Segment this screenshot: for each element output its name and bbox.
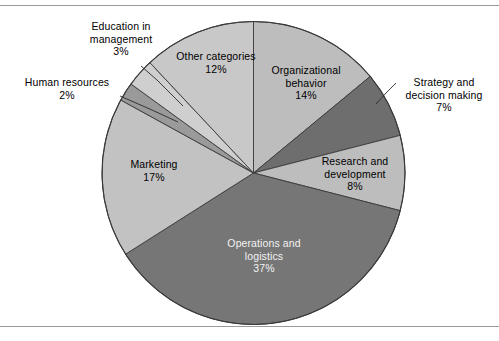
slice-label-education-in-management: Education in management 3% [66, 20, 176, 58]
figure-canvas: Organizational behavior 14% Strategy and… [0, 0, 499, 341]
label-line-1: Other categories [176, 50, 255, 62]
label-line-1: Strategy and [414, 76, 475, 88]
slice-label-strategy-and-decision-making: Strategy and decision making 7% [392, 76, 496, 114]
label-line-2: development [324, 168, 385, 180]
label-line-2: management [90, 33, 152, 45]
label-percent: 3% [66, 45, 176, 58]
label-line-1: Organizational [271, 64, 340, 76]
label-line-2: logistics [245, 250, 283, 262]
label-percent: 17% [109, 171, 199, 184]
slice-label-human-resources: Human resources 2% [10, 76, 124, 101]
label-line-1: Operations and [227, 237, 300, 249]
slice-label-operations-and-logistics: Operations and logistics 37% [210, 237, 318, 275]
label-percent: 37% [210, 262, 318, 275]
label-percent: 2% [10, 89, 124, 102]
slice-label-other-categories: Other categories 12% [162, 50, 270, 75]
label-line-2: decision making [406, 89, 483, 101]
label-line-2: behavior [285, 77, 326, 89]
label-line-1: Research and [322, 155, 389, 167]
slice-label-research-and-development: Research and development 8% [302, 155, 408, 193]
slice-label-marketing: Marketing 17% [109, 158, 199, 183]
label-line-1: Human resources [25, 76, 109, 88]
label-percent: 12% [162, 63, 270, 76]
label-line-1: Education in [91, 20, 150, 32]
label-percent: 7% [392, 101, 496, 114]
label-line-1: Marketing [130, 158, 177, 170]
label-percent: 8% [302, 180, 408, 193]
label-percent: 14% [252, 89, 360, 102]
